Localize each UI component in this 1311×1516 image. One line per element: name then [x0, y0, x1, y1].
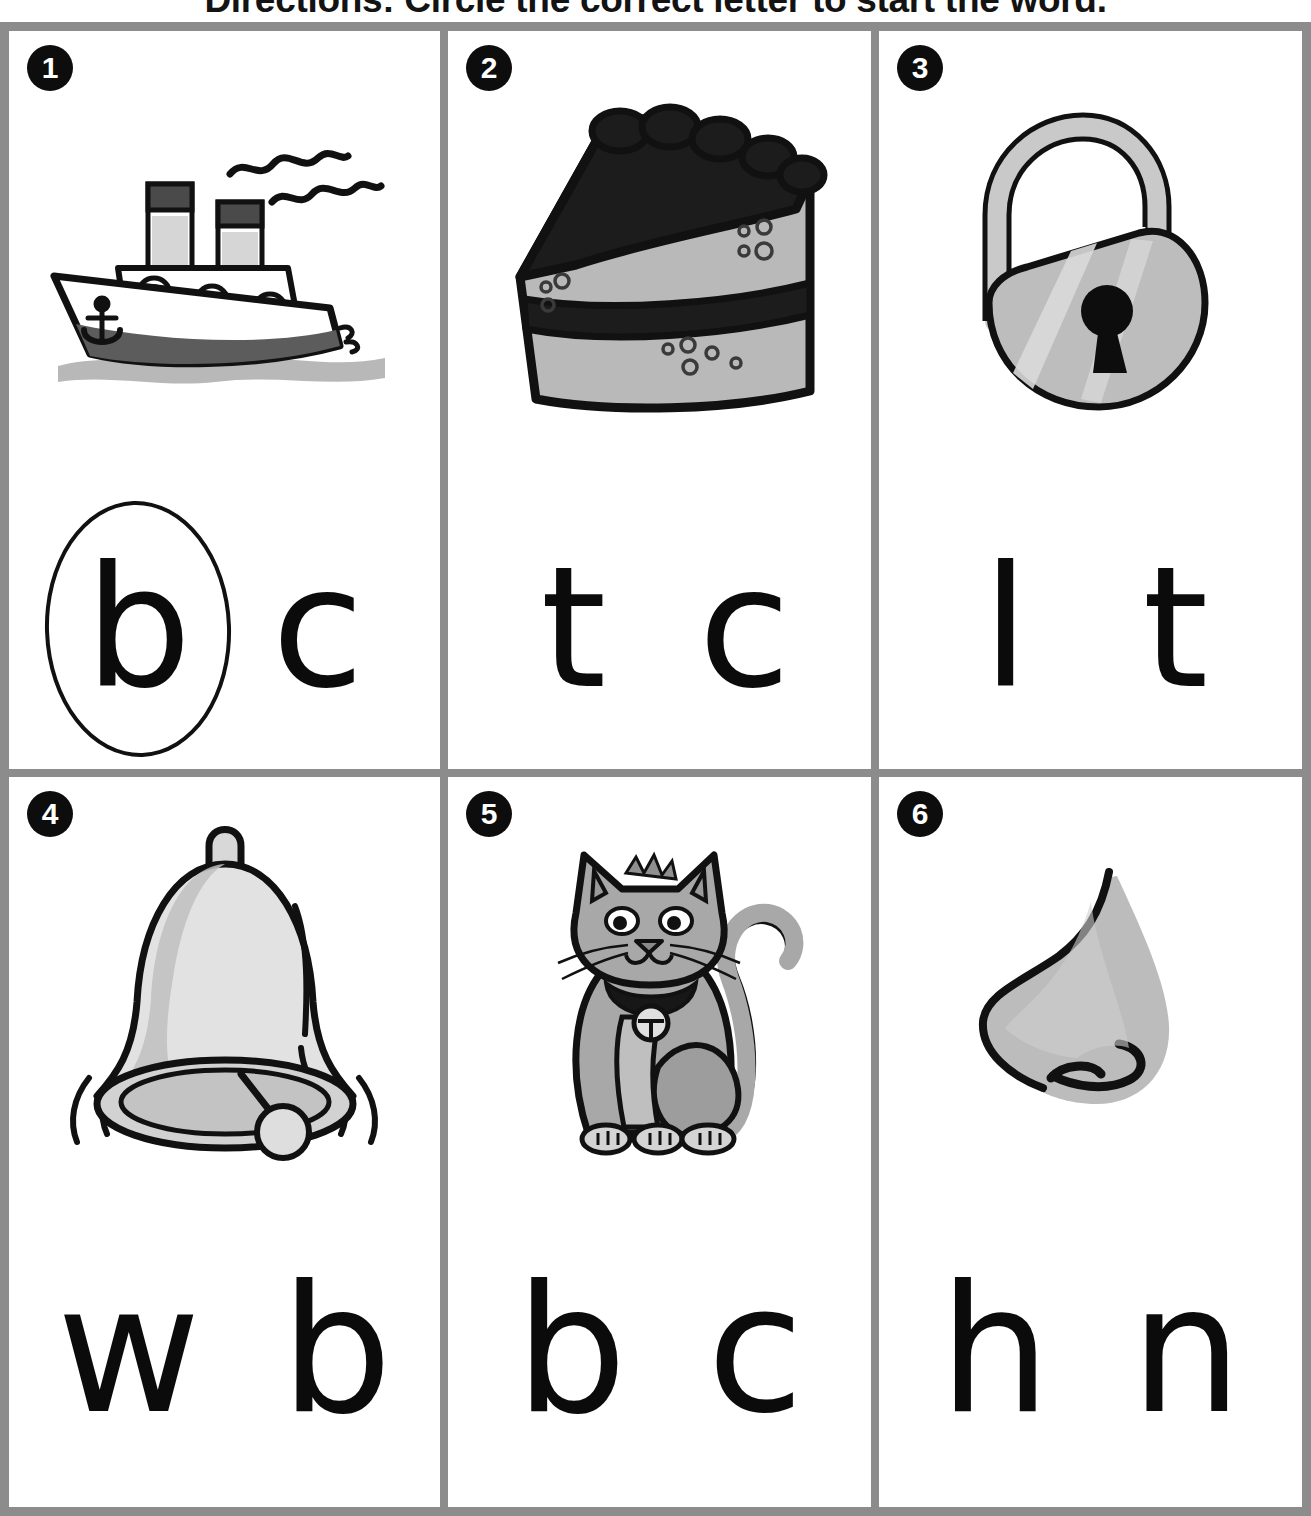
cake-slice-icon	[480, 101, 840, 431]
worksheet-item-1[interactable]: 1	[9, 31, 440, 769]
item-number-badge: 2	[466, 45, 512, 91]
choice-letter[interactable]: n	[1131, 1272, 1243, 1430]
boat-icon	[40, 116, 410, 416]
nose-icon	[971, 862, 1211, 1122]
item-picture-cat	[448, 777, 871, 1207]
worksheet-grid: 1	[0, 22, 1311, 1516]
worksheet-item-4[interactable]: 4	[9, 769, 440, 1507]
item-picture-nose	[879, 777, 1302, 1207]
directions-banner: Directions: Circle the correct letter to…	[0, 0, 1311, 22]
item-picture-lock	[879, 31, 1302, 501]
worksheet-item-6[interactable]: 6 h n	[871, 769, 1302, 1507]
item-choices[interactable]: t c	[448, 501, 871, 769]
item-choices[interactable]: l t	[879, 501, 1302, 769]
item-picture-boat	[9, 31, 440, 501]
worksheet-item-5[interactable]: 5	[440, 769, 871, 1507]
cat-icon	[510, 817, 810, 1167]
padlock-icon	[961, 111, 1221, 421]
choice-letter[interactable]: b	[281, 1272, 393, 1430]
choice-letter[interactable]: h	[939, 1272, 1051, 1430]
choice-letter[interactable]: b	[515, 1272, 627, 1430]
worksheet-item-3[interactable]: 3	[871, 31, 1302, 769]
item-choices[interactable]: b c	[9, 501, 440, 769]
choice-letter[interactable]: t	[528, 553, 618, 704]
item-picture-bell	[9, 777, 440, 1207]
choice-letter[interactable]: t	[1131, 553, 1221, 704]
item-number-badge: 1	[27, 45, 73, 91]
item-picture-cake	[448, 31, 871, 501]
worksheet-item-2[interactable]: 2	[440, 31, 871, 769]
item-choices[interactable]: w b	[9, 1207, 440, 1507]
directions-text: Directions: Circle the correct letter to…	[0, 0, 1311, 21]
choice-letter-circled[interactable]: b	[85, 553, 192, 704]
bell-icon	[55, 802, 395, 1182]
item-number-badge: 3	[897, 45, 943, 91]
item-choices[interactable]: b c	[448, 1207, 871, 1507]
item-choices[interactable]: h n	[879, 1207, 1302, 1507]
item-number-badge: 5	[466, 791, 512, 837]
choice-letter[interactable]: w	[57, 1272, 201, 1430]
choice-letter[interactable]: c	[698, 553, 790, 704]
choice-letter[interactable]: c	[707, 1272, 804, 1430]
item-number-badge: 6	[897, 791, 943, 837]
choice-letter[interactable]: c	[272, 553, 364, 704]
choice-letter[interactable]: l	[961, 553, 1051, 704]
item-number-badge: 4	[27, 791, 73, 837]
